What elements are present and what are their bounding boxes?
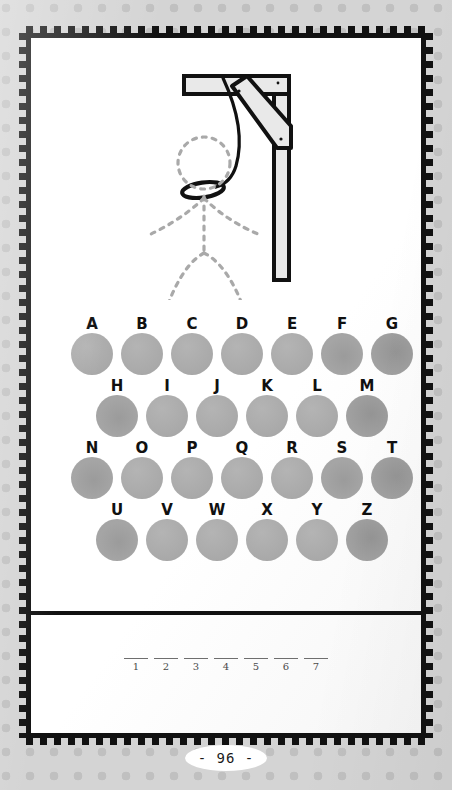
blank-number: 6 — [283, 661, 289, 673]
answer-blank-4[interactable]: 4 — [214, 658, 238, 673]
letter-key-h[interactable]: H — [92, 378, 142, 437]
keypad-row-a: A B C D E — [31, 316, 421, 375]
letter-key-o[interactable]: O — [117, 440, 167, 499]
letter-key-label: D — [236, 316, 248, 333]
letter-key-label: V — [161, 502, 173, 519]
letter-key-dot[interactable] — [71, 457, 113, 499]
blank-number: 4 — [223, 661, 229, 673]
letter-key-dot[interactable] — [271, 457, 313, 499]
letter-key-label: G — [386, 316, 398, 333]
letter-key-l[interactable]: L — [292, 378, 342, 437]
letter-key-dot[interactable] — [221, 333, 263, 375]
letter-key-dot[interactable] — [346, 395, 388, 437]
letter-key-label: H — [111, 378, 124, 395]
letter-key-label: L — [312, 378, 322, 395]
answer-area: 1 2 3 4 5 — [31, 615, 421, 733]
letter-key-dot[interactable] — [96, 395, 138, 437]
blank-rule — [154, 658, 178, 659]
letter-key-m[interactable]: M — [342, 378, 392, 437]
letter-key-u[interactable]: U — [92, 502, 142, 561]
figure-right-arm-icon — [204, 198, 258, 234]
letter-key-w[interactable]: W — [192, 502, 242, 561]
keypad-row-c: N O P Q R — [31, 440, 421, 499]
letter-key-dot[interactable] — [246, 395, 288, 437]
letter-key-n[interactable]: N — [67, 440, 117, 499]
answer-blank-6[interactable]: 6 — [274, 658, 298, 673]
letter-key-d[interactable]: D — [217, 316, 267, 375]
letter-key-f[interactable]: F — [317, 316, 367, 375]
figure-left-leg-icon — [168, 253, 204, 300]
answer-blank-1[interactable]: 1 — [124, 658, 148, 673]
letter-key-dot[interactable] — [96, 519, 138, 561]
blank-rule — [214, 658, 238, 659]
letter-key-dot[interactable] — [321, 333, 363, 375]
letter-key-dot[interactable] — [146, 395, 188, 437]
letter-key-x[interactable]: X — [242, 502, 292, 561]
letter-key-e[interactable]: E — [267, 316, 317, 375]
letter-key-label: R — [286, 440, 298, 457]
letter-key-g[interactable]: G — [367, 316, 417, 375]
letter-key-dot[interactable] — [171, 457, 213, 499]
letter-key-label: K — [261, 378, 273, 395]
letter-key-label: P — [187, 440, 198, 457]
letter-key-dot[interactable] — [321, 457, 363, 499]
letter-key-dot[interactable] — [146, 519, 188, 561]
letter-key-label: S — [337, 440, 348, 457]
letter-key-a[interactable]: A — [67, 316, 117, 375]
keypad-row-d: U V W X Y — [31, 502, 421, 561]
blank-number: 3 — [193, 661, 199, 673]
letter-key-t[interactable]: T — [367, 440, 417, 499]
letter-key-dot[interactable] — [71, 333, 113, 375]
letter-key-dot[interactable] — [296, 395, 338, 437]
letter-key-label: U — [111, 502, 123, 519]
letter-key-dot[interactable] — [346, 519, 388, 561]
letter-key-dot[interactable] — [371, 333, 413, 375]
letter-key-label: A — [86, 316, 98, 333]
blank-rule — [304, 658, 328, 659]
letter-key-label: F — [337, 316, 347, 333]
answer-blank-3[interactable]: 3 — [184, 658, 208, 673]
letter-key-label: T — [387, 440, 397, 457]
letter-key-label: C — [186, 316, 197, 333]
letter-key-p[interactable]: P — [167, 440, 217, 499]
letter-key-z[interactable]: Z — [342, 502, 392, 561]
letter-key-y[interactable]: Y — [292, 502, 342, 561]
answer-blank-7[interactable]: 7 — [304, 658, 328, 673]
figure-left-arm-icon — [151, 198, 204, 234]
page-number: - 96 - — [198, 750, 255, 766]
letter-key-label: Z — [362, 502, 373, 519]
letter-key-k[interactable]: K — [242, 378, 292, 437]
letter-key-label: J — [214, 378, 220, 395]
letter-key-dot[interactable] — [171, 333, 213, 375]
letter-key-dot[interactable] — [196, 519, 238, 561]
blank-number: 2 — [163, 661, 169, 673]
letter-key-i[interactable]: I — [142, 378, 192, 437]
letter-key-label: Y — [312, 502, 323, 519]
letter-key-b[interactable]: B — [117, 316, 167, 375]
gallows-svg — [31, 38, 421, 300]
letter-key-label: I — [164, 378, 170, 395]
letter-key-dot[interactable] — [246, 519, 288, 561]
gallows-drawing — [31, 38, 421, 300]
letter-key-j[interactable]: J — [192, 378, 242, 437]
letter-key-q[interactable]: Q — [217, 440, 267, 499]
letter-key-dot[interactable] — [271, 333, 313, 375]
letter-key-dot[interactable] — [296, 519, 338, 561]
answer-blank-2[interactable]: 2 — [154, 658, 178, 673]
letter-key-dot[interactable] — [121, 457, 163, 499]
letter-key-dot[interactable] — [196, 395, 238, 437]
letter-key-s[interactable]: S — [317, 440, 367, 499]
letter-key-label: O — [136, 440, 149, 457]
letter-key-v[interactable]: V — [142, 502, 192, 561]
letter-key-dot[interactable] — [121, 333, 163, 375]
stick-figure-outline — [151, 137, 258, 300]
letter-key-dot[interactable] — [221, 457, 263, 499]
blank-number: 5 — [253, 661, 259, 673]
answer-blank-5[interactable]: 5 — [244, 658, 268, 673]
blank-rule — [274, 658, 298, 659]
letter-key-dot[interactable] — [371, 457, 413, 499]
letter-key-c[interactable]: C — [167, 316, 217, 375]
letter-key-r[interactable]: R — [267, 440, 317, 499]
letter-key-label: M — [360, 378, 375, 395]
puzzle-card: A B C D E — [31, 38, 421, 733]
